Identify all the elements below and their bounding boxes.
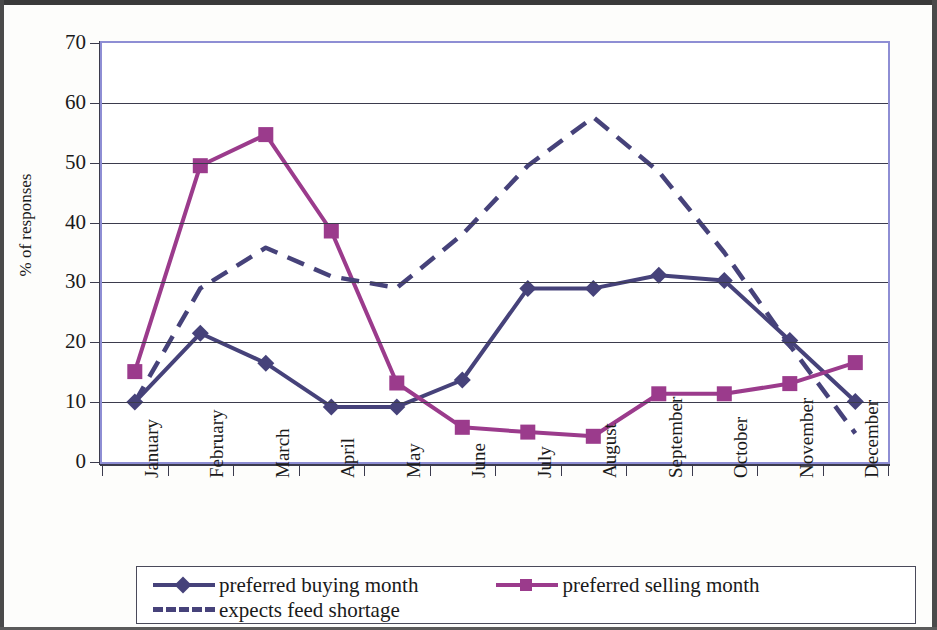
legend-row-secondary: expects feed shortage bbox=[153, 597, 400, 623]
legend-swatch-expects-feed-shortage bbox=[153, 602, 215, 618]
page-border-top bbox=[0, 0, 937, 5]
x-axis-tick bbox=[102, 466, 103, 476]
data-point-square bbox=[717, 386, 732, 401]
x-axis-tick-label: September bbox=[666, 397, 685, 478]
y-axis-tick-label: 10 bbox=[42, 391, 86, 412]
page-border-left bbox=[0, 0, 4, 630]
legend-marker-square-icon bbox=[520, 579, 532, 591]
series-line bbox=[135, 135, 856, 437]
series-layer bbox=[102, 43, 888, 462]
chart-page: % of responses 010203040506070 JanuaryFe… bbox=[0, 0, 937, 630]
gridline bbox=[102, 223, 888, 224]
y-axis-tick-label: 40 bbox=[42, 212, 86, 233]
data-point-square bbox=[848, 355, 863, 370]
x-axis-tick bbox=[233, 466, 234, 476]
legend-dashed-line bbox=[153, 607, 215, 612]
x-axis-tick bbox=[561, 466, 562, 476]
y-axis-tick-label: 30 bbox=[42, 271, 86, 292]
legend-item-expects-feed-shortage[interactable]: expects feed shortage bbox=[153, 600, 400, 621]
x-axis-tick-label: January bbox=[142, 419, 161, 478]
x-axis-tick bbox=[757, 466, 758, 476]
x-axis-tick-label: May bbox=[404, 443, 423, 478]
y-axis-tick-label: 0 bbox=[42, 451, 86, 472]
data-point-diamond bbox=[388, 398, 405, 415]
legend-item-preferred-selling-month[interactable]: preferred selling month bbox=[496, 575, 759, 596]
x-axis-tick-label: February bbox=[207, 409, 226, 478]
series-preferred-selling-month bbox=[127, 127, 863, 444]
data-point-square bbox=[127, 364, 142, 379]
legend-swatch-preferred-selling-month bbox=[496, 577, 558, 593]
x-axis-tick-label: October bbox=[731, 417, 750, 478]
x-axis-tick bbox=[495, 466, 496, 476]
x-axis-tick-label: April bbox=[338, 438, 357, 478]
legend-label: preferred selling month bbox=[562, 575, 759, 596]
gridline bbox=[102, 103, 888, 104]
page-border-right bbox=[932, 0, 937, 630]
x-axis-tick-label: August bbox=[600, 423, 619, 478]
data-point-square bbox=[324, 224, 339, 239]
series-line bbox=[135, 117, 856, 433]
plot-inner bbox=[102, 43, 888, 462]
data-point-square bbox=[389, 376, 404, 391]
data-point-square bbox=[193, 158, 208, 173]
data-point-square bbox=[782, 376, 797, 391]
legend-marker-diamond-icon bbox=[175, 577, 192, 594]
series-expects-feed-shortage bbox=[135, 117, 856, 433]
gridline bbox=[102, 282, 888, 283]
x-axis-tick-label: June bbox=[469, 443, 488, 478]
x-axis-tick bbox=[430, 466, 431, 476]
data-point-square bbox=[455, 420, 470, 435]
plot-area bbox=[100, 41, 890, 464]
x-axis-tick-label: December bbox=[862, 400, 881, 478]
x-axis-tick bbox=[364, 466, 365, 476]
legend-item-preferred-buying-month[interactable]: preferred buying month bbox=[153, 575, 418, 596]
gridline bbox=[102, 402, 888, 403]
data-point-square bbox=[258, 127, 273, 142]
x-axis-tick-label: March bbox=[273, 428, 292, 478]
x-axis-tick bbox=[299, 466, 300, 476]
gridline bbox=[102, 163, 888, 164]
y-axis-tick-label: 50 bbox=[42, 152, 86, 173]
x-axis-tick bbox=[168, 466, 169, 476]
x-axis-tick-label: November bbox=[797, 398, 816, 478]
y-axis-labels: 010203040506070 bbox=[36, 0, 86, 630]
x-axis-tick bbox=[888, 466, 889, 476]
y-axis-tick-label: 60 bbox=[42, 92, 86, 113]
y-axis-tick-label: 70 bbox=[42, 32, 86, 53]
data-point-square bbox=[520, 425, 535, 440]
x-axis-tick-label: July bbox=[535, 446, 554, 478]
legend-label: preferred buying month bbox=[219, 575, 418, 596]
y-axis-title: % of responses bbox=[16, 135, 36, 315]
x-axis-tick bbox=[823, 466, 824, 476]
x-axis-tick bbox=[626, 466, 627, 476]
chart-legend: preferred buying monthpreferred selling … bbox=[136, 566, 916, 624]
legend-swatch-preferred-buying-month bbox=[153, 577, 215, 593]
y-axis-tick-label: 20 bbox=[42, 331, 86, 352]
x-axis-tick bbox=[692, 466, 693, 476]
legend-label: expects feed shortage bbox=[219, 600, 400, 621]
legend-row-primary: preferred buying monthpreferred selling … bbox=[153, 572, 760, 598]
gridline bbox=[102, 342, 888, 343]
